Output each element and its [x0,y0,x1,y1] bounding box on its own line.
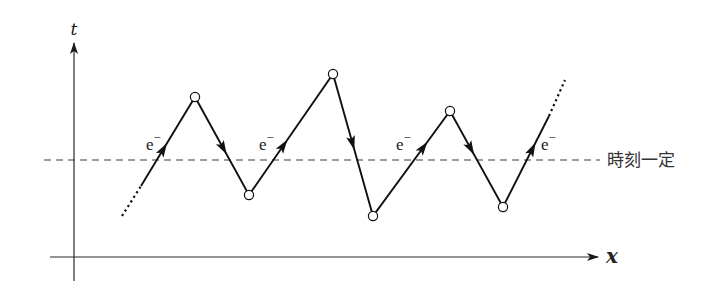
direction-arrow-icon [525,141,539,158]
electron-label: e− [146,130,161,154]
vertex-circle [328,69,337,78]
direction-arrow-icon [276,137,291,154]
electron-worldline [122,69,565,220]
direction-arrows [156,135,540,158]
x-axis-label: x [605,244,619,268]
electron-label: e− [541,130,556,154]
feynman-worldline-diagram: t x 時刻一定 e−e−e−e− [0,0,715,298]
direction-arrow-icon [346,135,358,151]
vertex-circle [368,211,377,220]
worldline-dotted-start [122,186,141,216]
vertex-circle [190,92,199,101]
vertex-circle [244,190,253,199]
electron-label: e− [259,130,274,154]
fixed-time-label: 時刻一定 [607,150,675,170]
worldline-dotted-end [549,80,565,116]
t-axis-label: t [71,19,78,39]
direction-arrow-icon [463,140,478,157]
vertex-circle [445,106,454,115]
worldline-zigzag [141,74,549,216]
vertex-circle [498,202,507,211]
direction-arrow-icon [216,140,231,157]
vertices [190,69,507,220]
electron-label: e− [396,130,411,154]
